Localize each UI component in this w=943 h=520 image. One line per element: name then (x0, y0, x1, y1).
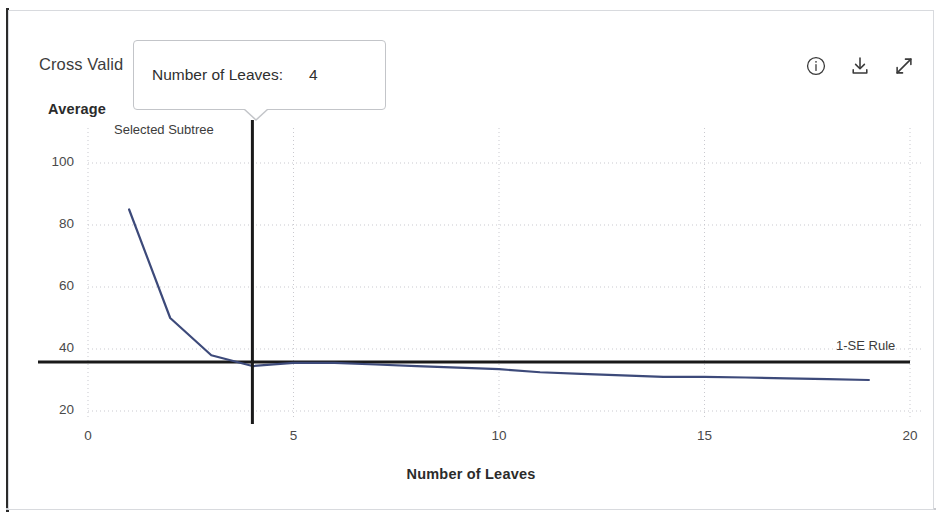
x-axis-tick-label: 20 (890, 428, 930, 443)
se-rule-annotation: 1-SE Rule (836, 338, 895, 353)
download-icon[interactable] (849, 55, 871, 77)
x-axis-title: Number of Leaves (9, 466, 933, 482)
y-axis-title: Average (48, 101, 106, 117)
y-axis-tick-label: 100 (34, 154, 74, 169)
tooltip-value: 4 (309, 66, 318, 84)
selected-subtree-annotation: Selected Subtree (114, 122, 214, 137)
y-axis-tick-label: 80 (34, 216, 74, 231)
tooltip-row: Number of Leaves: 4 (152, 66, 318, 84)
chart-toolbar (805, 55, 915, 77)
info-icon[interactable] (805, 55, 827, 77)
x-axis-tick-label: 10 (479, 428, 519, 443)
x-axis-tick-label: 5 (274, 428, 314, 443)
x-axis-tick-label: 0 (68, 428, 108, 443)
y-axis-tick-label: 20 (34, 402, 74, 417)
expand-icon[interactable] (893, 55, 915, 77)
tooltip-arrow-fill (244, 108, 268, 119)
y-axis-tick-label: 60 (34, 278, 74, 293)
y-axis-tick-label: 40 (34, 340, 74, 355)
page-title: Cross Valid (39, 55, 123, 74)
tooltip-key: Number of Leaves: (152, 66, 283, 84)
x-axis-tick-label: 15 (685, 428, 725, 443)
chart-tooltip: Number of Leaves: 4 (133, 40, 386, 110)
